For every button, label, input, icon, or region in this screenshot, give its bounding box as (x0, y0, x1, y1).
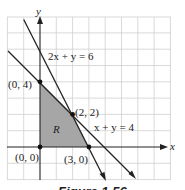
vertex-label-2-2: (2, 2) (75, 106, 99, 119)
x-axis-arrow-icon (160, 144, 168, 150)
vertex-label-0-4: (0, 4) (8, 78, 32, 91)
diagram-canvas: x y 2x + y = 6 x + y = 4 R (0, 4) (2, 2)… (0, 0, 185, 190)
y-axis-label: y (35, 5, 41, 17)
vertex-3-0 (87, 145, 92, 150)
vertex-label-0-0: (0, 0) (15, 151, 39, 164)
region-label: R (52, 123, 60, 135)
line-label-x-plus-y-eq-4: x + y = 4 (94, 121, 134, 133)
x-axis-label: x (169, 140, 175, 152)
vertex-label-3-0: (3, 0) (64, 153, 88, 166)
line-label-2x-plus-y-eq-6: 2x + y = 6 (48, 50, 94, 62)
vertex-0-4 (38, 79, 43, 84)
vertex-0-0 (38, 145, 43, 150)
figure-caption: Figure 1.56 (58, 184, 127, 190)
